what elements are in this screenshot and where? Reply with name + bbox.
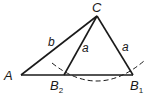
side-label-a-outer: a	[122, 40, 129, 54]
vertex-label-b2-subscript: 2	[59, 86, 64, 95]
vertex-label-b1-main: B	[130, 78, 139, 93]
vertex-label-b1: B1	[130, 78, 144, 95]
vertex-label-a: A	[3, 68, 13, 83]
vertex-label-c: C	[92, 0, 102, 15]
vertex-label-b2: B2	[50, 78, 64, 95]
vertex-label-b2-main: B	[50, 78, 59, 93]
side-a-b2-line	[64, 16, 97, 75]
vertex-label-b1-subscript: 1	[139, 86, 144, 95]
triangle-diagram: C A B2 B1 b a a	[0, 0, 148, 96]
side-label-a-inner: a	[82, 41, 89, 55]
side-label-b: b	[48, 35, 55, 49]
